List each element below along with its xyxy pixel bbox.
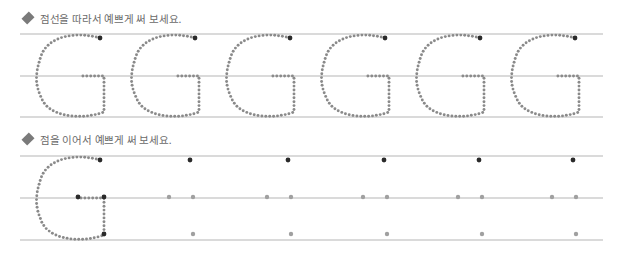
trace-dot — [418, 61, 421, 64]
trace-dot — [245, 111, 248, 114]
trace-dot — [363, 115, 366, 118]
start-dot — [288, 36, 293, 41]
trace-dot — [83, 197, 86, 200]
trace-dot — [522, 44, 525, 47]
trace-dot — [101, 111, 104, 114]
trace-dot — [147, 109, 150, 112]
trace-dot — [572, 112, 575, 115]
trace-dot — [388, 92, 391, 95]
trace-dot — [280, 114, 283, 117]
trace-dot — [44, 169, 47, 172]
trace-dot — [517, 50, 520, 53]
trace-dot — [483, 81, 486, 84]
trace-dot — [234, 47, 237, 50]
trace-dot — [47, 44, 50, 47]
trace-dot — [337, 109, 340, 112]
trace-dot — [477, 75, 480, 78]
trace-dot — [458, 115, 461, 118]
guide-dot — [574, 195, 578, 199]
trace-dot — [578, 92, 581, 95]
trace-dot — [388, 108, 391, 111]
trace-dot — [566, 35, 569, 38]
start-dot — [98, 36, 103, 41]
trace-dot — [188, 75, 191, 78]
trace-dot — [150, 111, 153, 114]
key-dot — [98, 158, 103, 163]
trace-dot — [40, 175, 43, 178]
trace-dot — [511, 68, 514, 71]
trace-dot — [103, 216, 106, 219]
trace-dot — [134, 57, 137, 60]
trace-dot — [103, 100, 106, 103]
trace-dot — [198, 92, 201, 95]
trace-dot — [89, 75, 92, 78]
trace-dot — [53, 39, 56, 42]
trace-dot — [531, 38, 534, 41]
trace-dot — [578, 104, 581, 107]
trace-dot — [557, 115, 560, 118]
trace-dot — [293, 104, 296, 107]
guide-dot — [550, 195, 554, 199]
trace-dot — [67, 114, 70, 117]
trace-dot — [330, 105, 333, 108]
trace-dot — [87, 34, 90, 37]
trace-dot — [425, 105, 428, 108]
trace-dot — [483, 104, 486, 107]
trace-dot — [439, 112, 442, 115]
trace-dot — [538, 113, 541, 116]
trace-dot — [360, 34, 363, 37]
trace-dot — [44, 47, 47, 50]
trace-dot — [75, 34, 78, 37]
trace-dot — [483, 100, 486, 103]
trace-dot — [103, 92, 106, 95]
trace-dot — [173, 115, 176, 118]
trace-dot — [181, 114, 184, 117]
trace-dot — [190, 36, 193, 39]
trace-dot — [130, 76, 133, 79]
trace-dot — [130, 80, 133, 83]
trace-dot — [348, 113, 351, 116]
trace-dot — [69, 237, 72, 240]
trace-dot — [38, 91, 41, 94]
trace-dot — [382, 75, 385, 78]
trace-dot — [226, 84, 229, 87]
trace-dot — [68, 34, 71, 37]
trace-dot — [237, 44, 240, 47]
trace-dot — [165, 115, 168, 118]
trace-dot — [198, 96, 201, 99]
trace-dot — [424, 47, 427, 50]
trace-dot — [512, 88, 515, 91]
trace-dot — [475, 36, 478, 39]
trace-dot — [562, 34, 565, 37]
trace-dot — [39, 95, 42, 98]
trace-dot — [416, 68, 419, 71]
trace-dot — [63, 113, 66, 116]
trace-dot — [225, 72, 228, 75]
trace-dot — [569, 113, 572, 116]
trace-dot — [228, 91, 231, 94]
trace-dot — [148, 39, 151, 42]
trace-dot — [273, 34, 276, 37]
trace-dot — [284, 113, 287, 116]
trace-dot — [359, 115, 362, 118]
trace-dot — [36, 84, 39, 87]
trace-dot — [159, 35, 162, 38]
trace-dot — [549, 115, 552, 118]
trace-dot — [277, 34, 280, 37]
trace-dot — [225, 80, 228, 83]
trace-dot — [130, 72, 133, 75]
trace-dot — [41, 99, 44, 102]
trace-dot — [43, 102, 46, 105]
trace-dot — [176, 75, 179, 78]
trace-dot — [375, 114, 378, 117]
trace-dot — [91, 197, 94, 200]
trace-dot — [519, 47, 522, 50]
guide-lines-row-2 — [20, 156, 603, 240]
trace-dot — [447, 114, 450, 117]
guide-dot — [385, 195, 389, 199]
trace-dot — [338, 39, 341, 42]
trace-dot — [35, 202, 38, 205]
trace-dot — [103, 209, 106, 212]
trace-dot — [355, 115, 358, 118]
trace-dot — [196, 111, 199, 114]
